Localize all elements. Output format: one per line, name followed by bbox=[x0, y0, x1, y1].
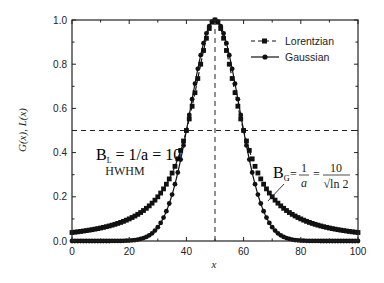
svg-text:10: 10 bbox=[330, 161, 342, 175]
y-tick-label: 0.2 bbox=[53, 191, 67, 202]
legend-gaussian: Gaussian bbox=[285, 51, 330, 63]
x-tick-label: 100 bbox=[350, 246, 367, 257]
y-tick-label: 0.4 bbox=[53, 147, 67, 158]
x-tick-label: 60 bbox=[238, 246, 250, 257]
circle-marker-icon bbox=[262, 54, 267, 59]
x-tick-label: 80 bbox=[295, 246, 307, 257]
legend: Lorentzian Gaussian bbox=[251, 35, 334, 63]
legend-lorentzian: Lorentzian bbox=[285, 35, 334, 47]
x-axis-label: x bbox=[211, 258, 217, 270]
svg-text:HWHM: HWHM bbox=[105, 164, 145, 178]
y-tick-label: 1.0 bbox=[53, 15, 67, 26]
x-tick-label: 40 bbox=[181, 246, 193, 257]
svg-text:=: = bbox=[290, 167, 297, 181]
annotation-bg: BG = 1 a = 10 √ln 2 bbox=[268, 161, 350, 201]
svg-text:=: = bbox=[313, 167, 320, 181]
svg-text:√ln 2: √ln 2 bbox=[324, 177, 349, 191]
y-tick-label: 0.0 bbox=[53, 236, 67, 247]
y-axis-label: G(x), L(x) bbox=[16, 108, 29, 152]
y-tick-label: 0.8 bbox=[53, 59, 67, 70]
annotation-bl: BL = 1/a = 10 HWHM bbox=[96, 146, 181, 178]
svg-text:BG: BG bbox=[273, 164, 290, 183]
x-tick-label: 20 bbox=[124, 246, 136, 257]
square-marker-icon bbox=[262, 39, 267, 44]
y-tick-label: 0.6 bbox=[53, 103, 67, 114]
svg-text:BL = 1/a = 10: BL = 1/a = 10 bbox=[96, 146, 181, 165]
x-tick-label: 0 bbox=[69, 246, 75, 257]
svg-text:a: a bbox=[301, 176, 307, 190]
svg-text:1: 1 bbox=[301, 161, 307, 175]
line-chart: 0204060801000.00.20.40.60.81.0 G(x), L(x… bbox=[0, 0, 384, 283]
